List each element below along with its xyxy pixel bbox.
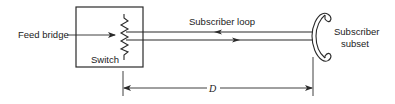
switch-label: Switch (91, 54, 119, 65)
feed-bridge-label: Feed bridge (18, 29, 69, 40)
subscriber-subset-label-line1: Subscriber (334, 26, 379, 37)
distance-label: D (208, 83, 217, 94)
subscriber-loop-label: Subscriber loop (189, 16, 255, 27)
resistor-icon (121, 14, 128, 60)
subscriber-loop-diagram: Feed bridge Switch Subscriber loop Subsc… (0, 0, 395, 104)
subscriber-subset-label-line2: subset (341, 38, 369, 49)
telephone-handset-icon (312, 13, 331, 61)
